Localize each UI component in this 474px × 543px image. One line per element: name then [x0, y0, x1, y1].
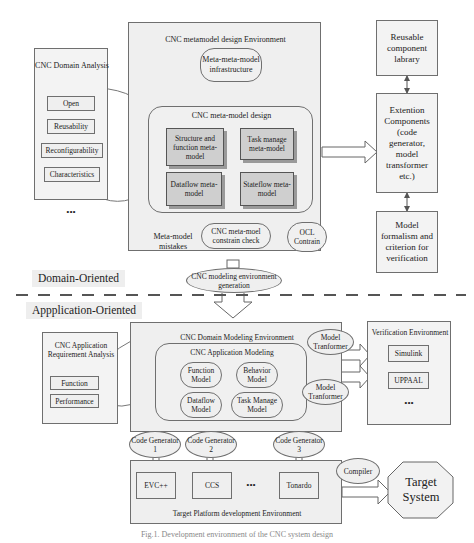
app-item-performance[interactable]: Performance — [50, 394, 99, 408]
verification-title: Verification Environment — [368, 328, 452, 337]
meta-model-design-title: CNC meta-model design — [149, 111, 314, 121]
domain-item-characteristics[interactable]: Characteristics — [44, 167, 100, 182]
ocl-constraint[interactable]: OCL Contrain — [287, 222, 327, 252]
application-oriented-label: Appplication-Oriented — [26, 302, 142, 319]
model-transformer-2[interactable]: Model Tranformer — [302, 379, 349, 405]
meta-meta-model-infrastructure[interactable]: Meta-meta-model infrastructure — [200, 48, 262, 82]
target-platform-title: Target Platform development Environment — [131, 509, 343, 518]
behavior-model[interactable]: Behavior Model — [236, 362, 278, 388]
structure-function-meta-model[interactable]: Structure and function meta-model — [166, 128, 224, 166]
domain-item-reconfigurability[interactable]: Reconfigurability — [41, 143, 103, 158]
domain-item-open[interactable]: Open — [47, 96, 95, 111]
code-generator-1[interactable]: Code Generator 1 — [129, 431, 181, 458]
metamodel-env-title: CNC metamodel design Environment — [129, 35, 322, 45]
code-generator-3[interactable]: Code Generator 3 — [273, 431, 325, 458]
platform-more-ellipsis: ••• — [236, 478, 266, 492]
model-transformer-1[interactable]: Model Tranformer — [307, 329, 354, 355]
domain-analysis-title: CNC Domain Analysis — [35, 61, 109, 71]
task-manage-meta-model[interactable]: Task manage meta-model — [240, 128, 294, 160]
function-model[interactable]: Function Model — [180, 362, 222, 388]
target-system[interactable]: Target System — [390, 464, 452, 516]
verification-more-ellipsis: ••• — [367, 397, 451, 409]
code-generator-2[interactable]: Code Generator 2 — [185, 431, 237, 458]
dataflow-model[interactable]: Dataflow Model — [180, 392, 222, 418]
verification-simulink[interactable]: Simulink — [388, 345, 429, 362]
dataflow-meta-model[interactable]: Dataflow meta-model — [166, 172, 222, 206]
task-manage-model[interactable]: Task Manage Model — [231, 392, 283, 418]
domain-oriented-label: Domain-Oriented — [32, 270, 125, 287]
constraint-check[interactable]: CNC meta-moel constrain check — [201, 223, 271, 249]
reusable-component-library[interactable]: Reusable component labrary — [376, 20, 438, 76]
app-analysis-title: CNC Application Requirement Analysis — [43, 341, 119, 359]
compiler[interactable]: Compiler — [336, 458, 380, 484]
platform-tonardo[interactable]: Tonardo — [279, 472, 319, 499]
platform-ccs[interactable]: CCS — [192, 472, 232, 499]
platform-evc[interactable]: EVC++ — [136, 472, 176, 499]
stateflow-meta-model[interactable]: Stateflow meta-model — [240, 172, 294, 206]
application-modeling-title: CNC Application Modeling — [156, 348, 308, 357]
environment-generation[interactable]: CNC modeling environment generation — [186, 268, 282, 293]
verification-uppaal[interactable]: UPPAAL — [388, 372, 429, 389]
app-item-function[interactable]: Function — [50, 376, 99, 390]
figure-caption: Fig.1. Development environment of the CN… — [0, 530, 474, 540]
domain-item-reusability[interactable]: Reusability — [47, 119, 95, 134]
model-formalism-criterion[interactable]: Model formalism and criterion for verifi… — [376, 211, 438, 273]
extension-components[interactable]: Extention Components (code generator, mo… — [376, 93, 438, 193]
domain-more-ellipsis: ••• — [34, 205, 108, 219]
meta-model-mistakes-label: Meta-model mistakes — [148, 232, 198, 252]
